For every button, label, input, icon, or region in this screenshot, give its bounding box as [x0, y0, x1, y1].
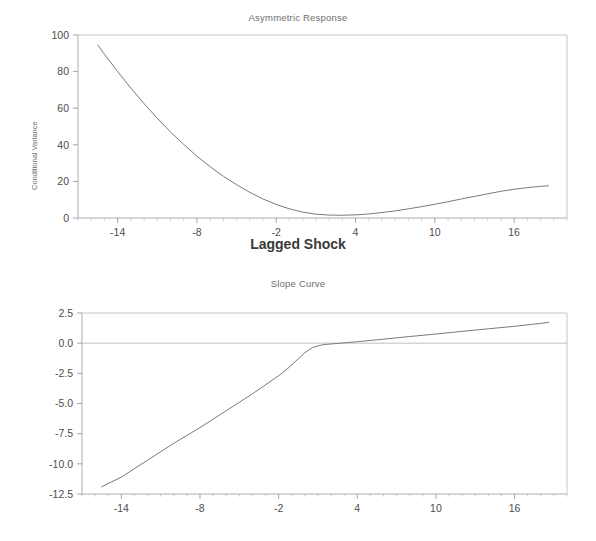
y-tick-label: -7.5 [55, 427, 73, 439]
x-tick-label: 16 [509, 502, 521, 514]
x-tick-label: 4 [354, 502, 360, 514]
figure-container: Asymmetric Response Conditional Variance… [0, 0, 596, 541]
x-tick-label: -14 [114, 502, 129, 514]
y-tick-label: 0 [63, 212, 69, 224]
y-tick-label: 100 [51, 29, 69, 41]
y-tick-label: 60 [57, 102, 69, 114]
y-tick-label: 20 [57, 175, 69, 187]
x-axis-label-top: Lagged Shock [0, 236, 596, 252]
chart-panel-asymmetric-response: Asymmetric Response Conditional Variance… [0, 0, 596, 270]
y-tick-label: 80 [57, 65, 69, 77]
chart-panel-slope-curve: Slope Curve 2.50.0-2.5-5.0-7.5-10.0-12.5… [0, 270, 596, 541]
y-tick-label: 2.5 [58, 307, 73, 319]
plot-area-bottom: 2.50.0-2.5-5.0-7.5-10.0-12.5-14-8-241016 [0, 270, 596, 541]
plot-area-top: 020406080100-14-8-241016 [0, 0, 596, 270]
y-tick-label: -12.5 [49, 488, 73, 500]
y-tick-label: 40 [57, 139, 69, 151]
y-tick-label: 0.0 [58, 337, 73, 349]
y-tick-label: -10.0 [49, 458, 73, 470]
data-series-line [102, 322, 549, 486]
y-tick-label: -2.5 [55, 367, 73, 379]
x-tick-label: -8 [195, 502, 204, 514]
y-tick-label: -5.0 [55, 397, 73, 409]
data-series-line [98, 45, 549, 215]
x-tick-label: 10 [430, 502, 442, 514]
x-tick-label: -2 [274, 502, 283, 514]
